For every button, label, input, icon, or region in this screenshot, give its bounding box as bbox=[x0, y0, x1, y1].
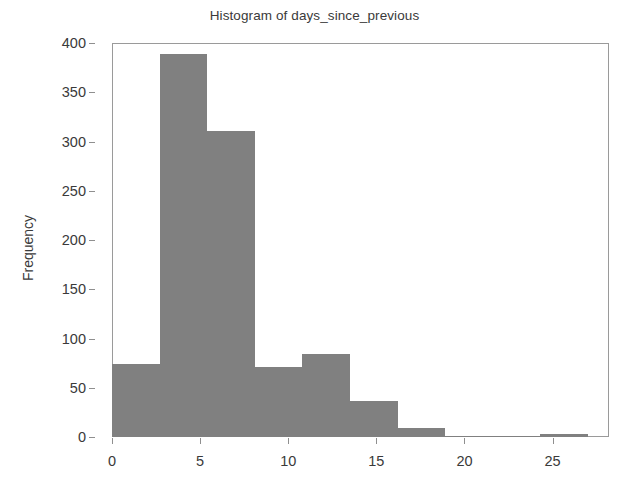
histogram-bar bbox=[160, 54, 208, 437]
x-tick-mark bbox=[553, 438, 554, 444]
histogram-bar bbox=[302, 354, 350, 437]
x-axis: 0510152025 bbox=[0, 437, 629, 487]
histogram-figure: Histogram of days_since_previous 0501001… bbox=[0, 0, 629, 487]
y-axis-title: Frequency bbox=[20, 178, 36, 318]
x-tick-mark bbox=[112, 438, 113, 444]
y-tick-label: 100 bbox=[62, 331, 86, 347]
histogram-bar bbox=[207, 131, 255, 437]
x-tick-label: 20 bbox=[456, 453, 472, 469]
y-tick-mark bbox=[89, 339, 95, 340]
x-tick-label: 25 bbox=[545, 453, 561, 469]
y-tick-label: 150 bbox=[62, 281, 86, 297]
x-tick-label: 5 bbox=[196, 453, 204, 469]
y-tick-mark bbox=[89, 289, 95, 290]
plot-area bbox=[112, 43, 609, 437]
histogram-bar bbox=[350, 401, 398, 437]
y-tick-label: 300 bbox=[62, 134, 86, 150]
x-tick-mark bbox=[200, 438, 201, 444]
y-tick-label: 200 bbox=[62, 232, 86, 248]
y-tick-label: 400 bbox=[62, 35, 86, 51]
y-tick-label: 50 bbox=[70, 380, 86, 396]
y-tick-label: 350 bbox=[62, 84, 86, 100]
y-tick-mark bbox=[89, 388, 95, 389]
x-tick-mark bbox=[288, 438, 289, 444]
histogram-bar bbox=[112, 364, 160, 437]
y-tick-label: 250 bbox=[62, 183, 86, 199]
x-tick-mark bbox=[464, 438, 465, 444]
y-tick-mark bbox=[89, 43, 95, 44]
x-tick-label: 15 bbox=[368, 453, 384, 469]
x-tick-label: 10 bbox=[280, 453, 296, 469]
y-tick-mark bbox=[89, 142, 95, 143]
x-tick-label: 0 bbox=[108, 453, 116, 469]
y-tick-mark bbox=[89, 191, 95, 192]
y-tick-mark bbox=[89, 240, 95, 241]
histogram-bar bbox=[398, 428, 446, 437]
y-axis: 050100150200250300350400 bbox=[0, 0, 112, 487]
histogram-bar bbox=[255, 367, 303, 437]
x-tick-mark bbox=[376, 438, 377, 444]
y-tick-mark bbox=[89, 92, 95, 93]
